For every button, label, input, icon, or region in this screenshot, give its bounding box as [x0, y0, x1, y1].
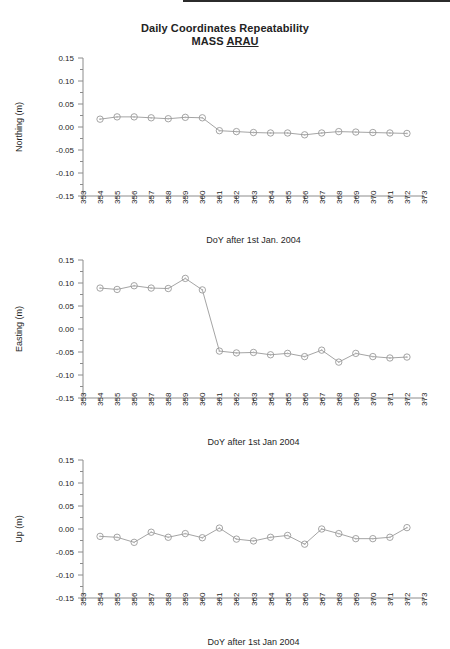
x-tick-label: 360 — [198, 190, 207, 204]
x-tick-label: 372 — [403, 190, 412, 204]
x-tick-label: 367 — [318, 190, 327, 204]
header-rule — [183, 0, 450, 2]
data-point-center — [219, 527, 221, 529]
x-tick-label: 354 — [96, 190, 105, 204]
data-point-center — [372, 538, 374, 540]
data-point-center — [219, 130, 221, 132]
chart-title-station: ARAU — [226, 35, 258, 47]
chart-title-prefix: MASS — [191, 35, 226, 47]
x-tick-label: 363 — [250, 392, 259, 406]
x-tick-label: 357 — [147, 592, 156, 606]
x-tick-label: 361 — [215, 392, 224, 406]
x-tick-label: 367 — [318, 392, 327, 406]
x-axis-title: DoY after 1st Jan 2004 — [208, 437, 300, 447]
x-tick-label: 363 — [250, 190, 259, 204]
y-tick-label: -0.10 — [56, 571, 75, 580]
y-tick-label: 0.15 — [58, 54, 74, 63]
y-tick-label: -0.05 — [56, 348, 75, 357]
y-tick-label: 0.00 — [58, 325, 74, 334]
x-tick-label: 372 — [403, 592, 412, 606]
data-point-center — [389, 536, 391, 538]
x-tick-label: 358 — [164, 190, 173, 204]
x-tick-label: 364 — [267, 190, 276, 204]
plot-up: 0.150.100.050.00-0.05-0.10-0.15353354355… — [0, 452, 450, 649]
data-point-center — [99, 118, 101, 120]
data-point-center — [389, 132, 391, 134]
data-point-center — [253, 540, 255, 542]
data-point-center — [270, 132, 272, 134]
x-tick-label: 369 — [352, 592, 361, 606]
data-point-center — [304, 134, 306, 136]
data-point-center — [201, 117, 203, 119]
data-point-center — [219, 350, 221, 352]
plot-northing: 0.150.100.050.00-0.05-0.10-0.15353354355… — [0, 50, 450, 250]
x-tick-label: 373 — [420, 592, 429, 606]
data-point-center — [372, 356, 374, 358]
y-axis-title: Easting (m) — [14, 306, 24, 352]
data-point-center — [253, 352, 255, 354]
y-tick-label: 0.15 — [58, 456, 74, 465]
x-tick-label: 372 — [403, 392, 412, 406]
y-tick-label: 0.00 — [58, 123, 74, 132]
data-point-center — [338, 131, 340, 133]
x-tick-label: 362 — [232, 392, 241, 406]
data-point-center — [270, 354, 272, 356]
data-point-center — [406, 356, 408, 358]
chart-title: Daily Coordinates Repeatability MASS ARA… — [0, 22, 450, 48]
data-point-center — [236, 538, 238, 540]
data-point-center — [270, 536, 272, 538]
x-tick-label: 356 — [130, 592, 139, 606]
data-point-center — [355, 538, 357, 540]
y-tick-label: -0.05 — [56, 548, 75, 557]
data-point-center — [184, 533, 186, 535]
x-tick-label: 353 — [79, 392, 88, 406]
x-tick-label: 354 — [96, 592, 105, 606]
x-tick-label: 357 — [147, 190, 156, 204]
data-point-center — [236, 352, 238, 354]
data-point-center — [133, 116, 135, 118]
x-tick-label: 360 — [198, 392, 207, 406]
data-point-center — [184, 278, 186, 280]
y-tick-label: 0.10 — [58, 279, 74, 288]
x-tick-label: 365 — [284, 392, 293, 406]
x-tick-label: 359 — [181, 190, 190, 204]
x-tick-label: 358 — [164, 592, 173, 606]
panel-up: 0.150.100.050.00-0.05-0.10-0.15353354355… — [0, 452, 450, 649]
data-point-center — [99, 535, 101, 537]
data-point-center — [253, 132, 255, 134]
y-tick-label: -0.10 — [56, 371, 75, 380]
x-tick-label: 371 — [386, 190, 395, 204]
x-tick-label: 358 — [164, 392, 173, 406]
y-tick-label: -0.05 — [56, 146, 75, 155]
y-tick-label: -0.15 — [56, 594, 75, 603]
x-tick-label: 367 — [318, 592, 327, 606]
y-tick-label: 0.15 — [58, 256, 74, 265]
data-point-center — [287, 352, 289, 354]
data-point-center — [338, 533, 340, 535]
data-point-center — [150, 531, 152, 533]
data-point-center — [321, 528, 323, 530]
data-point-center — [389, 357, 391, 359]
axis-lines — [83, 460, 424, 598]
y-tick-label: -0.10 — [56, 169, 75, 178]
y-tick-label: 0.05 — [58, 100, 74, 109]
x-tick-label: 370 — [369, 592, 378, 606]
x-tick-label: 360 — [198, 592, 207, 606]
x-tick-label: 368 — [335, 592, 344, 606]
y-tick-label: 0.05 — [58, 302, 74, 311]
data-point-center — [338, 361, 340, 363]
x-tick-label: 370 — [369, 190, 378, 204]
data-point-center — [355, 131, 357, 133]
x-tick-label: 356 — [130, 392, 139, 406]
x-tick-label: 366 — [301, 190, 310, 204]
data-point-center — [201, 289, 203, 291]
y-axis-title: Up (m) — [14, 515, 24, 543]
chart-title-line2: MASS ARAU — [0, 35, 450, 48]
x-tick-label: 359 — [181, 392, 190, 406]
x-tick-label: 353 — [79, 190, 88, 204]
x-tick-label: 368 — [335, 190, 344, 204]
x-tick-label: 361 — [215, 592, 224, 606]
y-tick-label: 0.05 — [58, 502, 74, 511]
x-tick-label: 362 — [232, 190, 241, 204]
x-tick-label: 362 — [232, 592, 241, 606]
